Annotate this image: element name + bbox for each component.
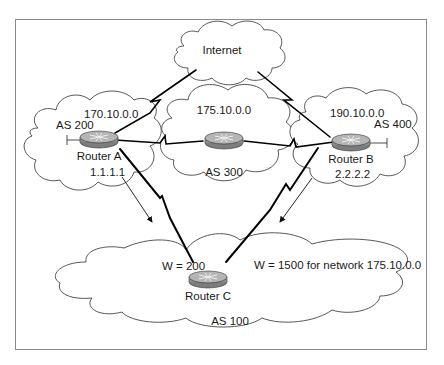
label-as100: AS 100: [211, 315, 249, 327]
label-router-b: Router B: [328, 153, 374, 165]
router-as300-icon[interactable]: [205, 132, 243, 149]
label-internet: Internet: [203, 44, 243, 56]
router-a-icon[interactable]: [80, 131, 118, 148]
label-router-a: Router A: [77, 150, 122, 162]
label-as300: AS 300: [205, 166, 243, 178]
label-as200: AS 200: [56, 119, 94, 131]
network-diagram: Internet AS 200 170.10.0.0 175.10.0.0 AS…: [0, 0, 444, 365]
cloud-as100: [55, 233, 407, 327]
label-weight-1500: W = 1500 for network 175.10.0.0: [254, 259, 421, 271]
router-b-icon[interactable]: [332, 134, 370, 151]
router-c-icon[interactable]: [189, 271, 227, 288]
label-network-170: 170.10.0.0: [84, 108, 138, 120]
label-router-b-address: 2.2.2.2: [335, 168, 370, 180]
label-weight-200: W = 200: [162, 260, 205, 272]
label-as400: AS 400: [374, 118, 412, 130]
label-router-a-address: 1.1.1.1: [90, 166, 125, 178]
label-network-175: 175.10.0.0: [197, 104, 251, 116]
label-router-c: Router C: [185, 290, 231, 302]
